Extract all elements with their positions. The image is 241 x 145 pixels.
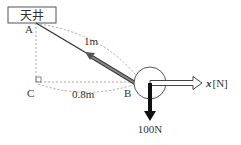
length-label-AB: 1m	[84, 35, 99, 47]
unknown-force-unit: [N]	[213, 77, 228, 89]
force-diagram: 天井 A C B 1m 0.8m 100N x[N]	[0, 0, 241, 145]
construction-lines	[36, 23, 138, 92]
length-label-CB: 0.8m	[72, 88, 95, 100]
dimension-arc-AB	[40, 24, 138, 78]
weight-label: 100N	[138, 123, 163, 135]
point-label-A: A	[25, 23, 33, 35]
ceiling: 天井	[8, 7, 56, 23]
tension-arrow	[85, 52, 135, 83]
point-label-C: C	[27, 87, 34, 99]
right-angle-marker	[36, 77, 41, 82]
unknown-force-label: x[N]	[205, 77, 228, 89]
ceiling-label: 天井	[20, 9, 44, 23]
unknown-force-symbol: x	[205, 77, 212, 89]
point-label-B: B	[124, 87, 131, 99]
